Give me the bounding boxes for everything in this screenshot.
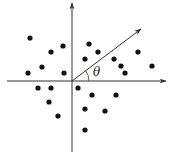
data-point	[46, 99, 51, 104]
data-point	[27, 35, 32, 40]
angle-arc	[86, 71, 89, 81]
data-point	[113, 92, 118, 97]
data-point	[102, 108, 107, 113]
direction-vector	[72, 29, 141, 81]
data-point	[82, 127, 87, 132]
data-points	[25, 35, 154, 132]
data-point	[60, 43, 65, 48]
data-point	[122, 70, 127, 75]
data-point	[111, 56, 116, 61]
data-point	[48, 85, 53, 90]
data-point	[149, 63, 154, 68]
data-point	[95, 49, 100, 54]
data-point	[89, 92, 94, 97]
data-point	[39, 64, 44, 69]
data-point	[135, 49, 140, 54]
data-point	[82, 106, 87, 111]
data-point	[82, 56, 87, 61]
data-point	[35, 85, 40, 90]
data-point	[55, 113, 60, 118]
data-point	[48, 49, 53, 54]
theta-label: θ	[93, 65, 101, 79]
data-point	[75, 85, 80, 90]
data-point	[61, 70, 66, 75]
data-point	[86, 41, 91, 46]
data-point	[118, 63, 123, 68]
data-point	[25, 70, 30, 75]
scatter-diagram: θ	[0, 0, 170, 158]
